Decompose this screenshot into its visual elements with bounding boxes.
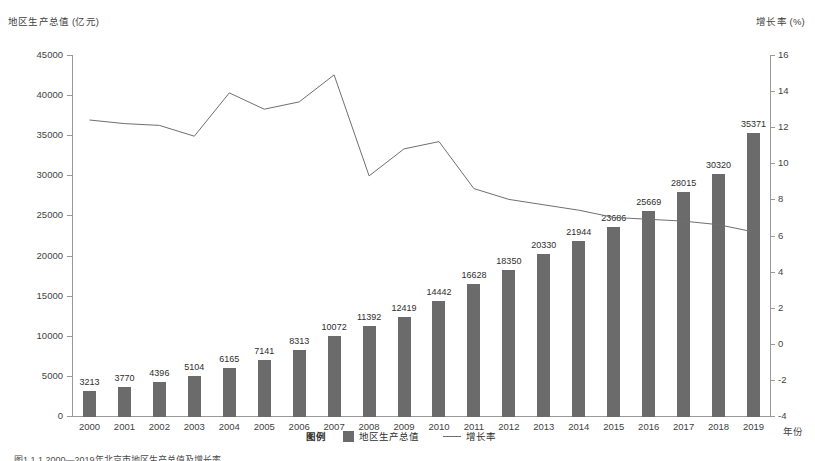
right-axis-tick-label: 0	[778, 338, 783, 349]
right-axis-tick-label: 8	[778, 193, 783, 204]
chart-legend: 图例 地区生产总值 增长率	[0, 429, 815, 443]
right-axis-tick-label: 2	[778, 302, 783, 313]
plot-area: 4500040000350003000025000200001500010000…	[72, 55, 771, 417]
left-axis-tick-label: 20000	[19, 250, 63, 261]
right-axis-title: 增长率 (%)	[756, 14, 805, 28]
legend-item-gdp-label: 地区生产总值	[359, 429, 419, 443]
left-axis-tick-label: 25000	[19, 209, 63, 220]
left-axis-tick-label: 35000	[19, 129, 63, 140]
left-axis-tick-label: 10000	[19, 330, 63, 341]
bar-swatch-icon	[343, 431, 354, 442]
right-axis-tick-label: 6	[778, 230, 783, 241]
left-axis-tick-label: 30000	[19, 169, 63, 180]
growth-rate-line-series	[72, 55, 771, 417]
right-axis-tick-label: 4	[778, 266, 783, 277]
right-axis-tick-label: 10	[778, 157, 789, 168]
growth-rate-polyline	[90, 75, 754, 232]
right-axis-tick-label: 14	[778, 85, 789, 96]
left-axis-tick-label: 15000	[19, 290, 63, 301]
legend-title: 图例	[306, 429, 327, 443]
chart-container: 地区生产总值 (亿元) 增长率 (%) 45000400003500030000…	[0, 0, 815, 461]
left-axis-tick-label: 45000	[19, 49, 63, 60]
left-axis-title: 地区生产总值 (亿元)	[8, 14, 99, 28]
left-axis-tick-label: 0	[19, 410, 63, 421]
left-axis-tick-label: 40000	[19, 89, 63, 100]
legend-item-growth-label: 增长率	[466, 429, 496, 443]
right-axis-tick-label: -2	[778, 374, 786, 385]
legend-item-gdp: 地区生产总值	[343, 429, 419, 443]
right-axis-tick-label: -4	[778, 410, 786, 421]
left-axis-tick-label: 5000	[19, 370, 63, 381]
right-axis-tick-label: 12	[778, 121, 789, 132]
right-axis-tick-label: 16	[778, 49, 789, 60]
figure-caption: 图1.1.1 2000—2019年北京市地区生产总值及增长率	[14, 453, 221, 461]
line-swatch-icon	[443, 436, 461, 437]
legend-item-growth: 增长率	[443, 429, 496, 443]
